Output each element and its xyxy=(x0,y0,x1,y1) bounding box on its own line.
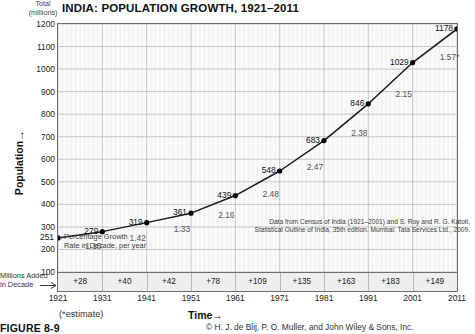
millions-added-1971-1981: +135 xyxy=(293,277,311,286)
y-tick-800: 800 xyxy=(25,109,55,119)
growth-rate-label-1981-1991: 2.38 xyxy=(351,128,367,138)
figure-id: FIGURE 8-9 xyxy=(0,322,60,334)
growth-rate-note: Percentage Growth Rate in Decade, per ye… xyxy=(64,232,146,250)
x-axis-title-text: Time xyxy=(188,309,212,321)
point-label-1921: 251 xyxy=(40,232,54,242)
x-tick-1921: 1921 xyxy=(49,293,68,303)
data-point-1941 xyxy=(144,220,149,225)
x-tick-1951: 1951 xyxy=(182,293,201,303)
y-tick-900: 900 xyxy=(25,87,55,97)
millions-added-separator xyxy=(413,273,414,291)
y-tick-500: 500 xyxy=(25,177,55,187)
point-label-1941: 319 xyxy=(129,217,143,227)
data-point-2001 xyxy=(410,60,415,65)
x-tick-2001: 2001 xyxy=(403,293,422,303)
y-tick-200: 200 xyxy=(25,244,55,254)
x-axis-arrow-icon: → xyxy=(212,309,223,321)
data-point-1971 xyxy=(277,168,282,173)
millions-added-arrow-icon xyxy=(40,281,58,290)
point-label-1971: 548 xyxy=(262,165,276,175)
growth-rate-label-1971-1981: 2.47 xyxy=(307,162,323,172)
point-label-1951: 361 xyxy=(173,207,187,217)
data-point-1961 xyxy=(233,193,238,198)
y-tick-1100: 1100 xyxy=(25,42,55,52)
estimate-note: (*estimate) xyxy=(59,309,103,319)
data-point-1981 xyxy=(321,138,326,143)
x-tick-1981: 1981 xyxy=(315,293,334,303)
millions-added-separator xyxy=(147,273,148,291)
y-tick-300: 300 xyxy=(25,222,55,232)
point-label-2011: 1178 xyxy=(435,23,453,33)
x-tick-1931: 1931 xyxy=(93,293,112,303)
y-tick-1000: 1000 xyxy=(25,64,55,74)
x-tick-1941: 1941 xyxy=(137,293,156,303)
point-label-2001: 1029 xyxy=(390,57,409,67)
x-tick-2011: 2011 xyxy=(448,293,466,303)
x-tick-1971: 1971 xyxy=(270,293,289,303)
data-point-1951 xyxy=(188,211,193,216)
millions-added-separator xyxy=(324,273,325,291)
x-tick-1961: 1961 xyxy=(226,293,245,303)
growth-rate-note-line1: Percentage Growth xyxy=(64,232,146,241)
growth-rate-label-1991-2001: 2.15 xyxy=(396,89,412,99)
point-label-1991: 846 xyxy=(350,98,364,108)
millions-added-band: +28+40+42+78+109+135+163+183+149 xyxy=(57,273,458,292)
millions-added-separator xyxy=(235,273,236,291)
growth-rate-label-1961-1971: 2.48 xyxy=(263,189,279,199)
y-tick-1200: 1200 xyxy=(25,19,55,29)
growth-rate-note-line2: Rate in Decade, per year xyxy=(64,241,146,250)
millions-added-1941-1951: +42 xyxy=(162,277,176,286)
millions-added-1951-1961: +78 xyxy=(206,277,220,286)
millions-added-separator xyxy=(191,273,192,291)
x-axis-title: Time→ xyxy=(188,309,223,321)
chart-title: INDIA: POPULATION GROWTH, 1921–2011 xyxy=(62,2,299,14)
millions-added-2001-2011: +149 xyxy=(426,277,444,286)
x-tick-1991: 1991 xyxy=(359,293,378,303)
millions-added-1961-1971: +109 xyxy=(248,277,266,286)
source-note-line2: Statistical Outline of India, 35th editi… xyxy=(230,226,470,234)
millions-added-separator xyxy=(280,273,281,291)
growth-rate-label-2001-2011: 1.57* xyxy=(440,52,460,62)
data-point-1921 xyxy=(58,235,61,240)
point-label-1961: 439 xyxy=(217,190,231,200)
millions-added-1921-1931: +28 xyxy=(73,277,87,286)
data-point-1991 xyxy=(366,101,371,106)
millions-added-1981-1991: +163 xyxy=(337,277,355,286)
millions-added-separator xyxy=(102,273,103,291)
y-tick-700: 700 xyxy=(25,132,55,142)
point-label-1981: 683 xyxy=(306,135,320,145)
millions-added-separator xyxy=(368,273,369,291)
copyright-line: © H. J. de Blij, P. O. Muller, and John … xyxy=(206,322,414,332)
millions-added-1991-2001: +183 xyxy=(381,277,399,286)
millions-added-1931-1941: +40 xyxy=(118,277,132,286)
source-note: Data from Census of India (1921–2001) an… xyxy=(230,218,470,234)
growth-rate-label-1941-1951: 1.33 xyxy=(174,224,190,234)
y-tick-400: 400 xyxy=(25,199,55,209)
y-tick-600: 600 xyxy=(25,154,55,164)
source-note-line1: Data from Census of India (1921–2001) an… xyxy=(230,218,470,226)
